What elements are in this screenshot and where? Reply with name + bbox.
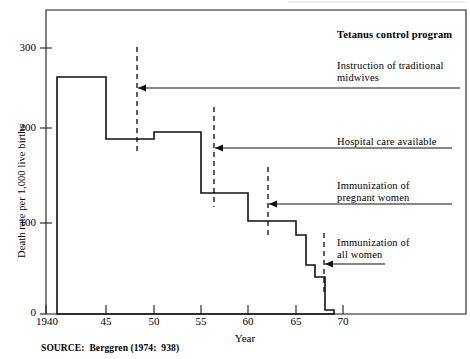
y-tick-label-100: 100 bbox=[10, 217, 36, 229]
x-tick-label-70: 70 bbox=[329, 316, 357, 328]
annotation-instruction-of-traditional-midwives-line1: Instruction of traditional bbox=[337, 60, 444, 71]
plot-frame bbox=[46, 10, 466, 314]
x-tick-label-45: 45 bbox=[92, 316, 120, 328]
x-tick-label-50: 50 bbox=[140, 316, 168, 328]
x-tick-label-65: 65 bbox=[282, 316, 310, 328]
annotation-tetanus-control-program: Tetanus control program bbox=[337, 29, 452, 40]
histogram-bars bbox=[57, 77, 334, 314]
annotation-immunization-of-all-women-line1: Immunization of bbox=[337, 237, 410, 248]
annotation-instruction-of-traditional-midwives-line2: midwives bbox=[337, 72, 379, 83]
x-axis-ticks bbox=[46, 305, 343, 314]
x-tick-label-55: 55 bbox=[187, 316, 215, 328]
y-axis-label: Death rate per 1,000 live births bbox=[16, 124, 27, 258]
figure-container: Death rate per 1,000 live births 300 200… bbox=[0, 0, 470, 359]
x-tick-label-60: 60 bbox=[234, 316, 262, 328]
annotation-immunization-of-all-women-line2: all women bbox=[337, 249, 382, 260]
annotation-immunization-of-pregnant-women-line1: Immunization of bbox=[337, 180, 410, 191]
x-tick-label-1940: 1940 bbox=[28, 316, 66, 328]
y-tick-label-300: 300 bbox=[10, 42, 36, 54]
annotation-hospital-care-available: Hospital care available bbox=[337, 136, 437, 147]
event-marker-lines bbox=[137, 47, 324, 295]
annotation-leader-lines bbox=[138, 85, 460, 268]
annotation-immunization-of-pregnant-women-line2: pregnant women bbox=[337, 192, 409, 203]
x-axis-label: Year bbox=[215, 333, 275, 345]
y-tick-label-200: 200 bbox=[10, 122, 36, 134]
source-note: SOURCE: Berggren (1974: 938) bbox=[41, 343, 179, 353]
